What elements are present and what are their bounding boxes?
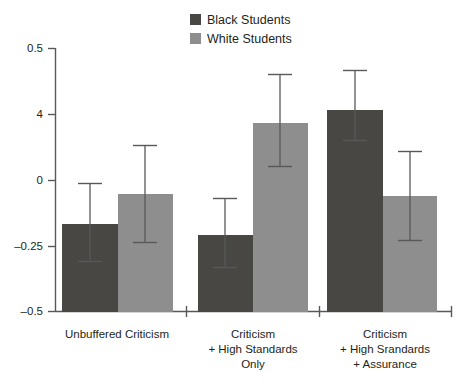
category-label-unbuffered-criticism-line-1: Unbuffered Criticism xyxy=(65,328,169,340)
y-tick-label-0: 0.5 xyxy=(27,42,43,54)
category-label-group2-line-2: + High Standards xyxy=(208,343,297,355)
y-tick-label-3: –0.25 xyxy=(14,240,43,252)
legend-swatch-white-students xyxy=(190,33,201,44)
category-label-group3-line-2: + High Srandards xyxy=(340,343,430,355)
y-tick-label-4: –0.5 xyxy=(21,305,43,317)
bar-chart: Black Students White Students 0.5 4 0 –0… xyxy=(0,0,466,384)
legend-swatch-black-students xyxy=(190,14,201,25)
legend-label-black-students: Black Students xyxy=(207,13,290,27)
legend-label-white-students: White Students xyxy=(207,32,292,46)
y-tick-label-2: 0 xyxy=(37,174,43,186)
category-label-group3-line-3: + Assurance xyxy=(353,358,417,370)
y-tick-label-1: 4 xyxy=(37,108,44,120)
category-label-group2-line-1: Criticism xyxy=(231,328,275,340)
category-label-group3-line-1: Criticism xyxy=(363,328,407,340)
category-label-group2-line-3: Only xyxy=(241,358,265,370)
chart-background xyxy=(0,0,466,384)
